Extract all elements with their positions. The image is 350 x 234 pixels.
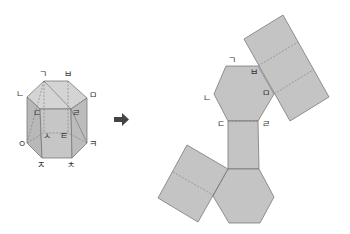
arrow-icon [114, 113, 129, 126]
label-g: ㄱ [39, 69, 47, 79]
net-side-strip-lower [158, 145, 228, 222]
label-b: ㅂ [64, 69, 72, 79]
label-s: ㅅ [43, 131, 51, 141]
label-j: ㅈ [37, 160, 45, 170]
label-d: ㄷ [33, 108, 41, 118]
hexagonal-prism: ㄱ ㅂ ㅁ ㄴ ㄷ ㄹ ㅅ ㅌ ㅇ ㅋ ㅈ ㅊ [16, 69, 97, 170]
label-o: ㅇ [18, 139, 26, 149]
net-label-m: ㅁ [262, 88, 270, 98]
label-n: ㄴ [16, 89, 24, 99]
net-label-n: ㄴ [203, 93, 211, 103]
label-m: ㅁ [89, 90, 97, 100]
diagram-canvas: ㄱ ㅂ ㅁ ㄴ ㄷ ㄹ ㅅ ㅌ ㅇ ㅋ ㅈ ㅊ [0, 0, 350, 234]
prism-net: ㄱ ㅂ ㄴ ㅁ ㄷ ㄹ [158, 15, 329, 223]
label-t: ㅌ [60, 131, 68, 141]
net-middle-face [228, 121, 259, 169]
net-label-r: ㄹ [262, 119, 270, 129]
net-label-d: ㄷ [217, 119, 225, 129]
net-label-g: ㄱ [228, 55, 236, 65]
label-ch: ㅊ [67, 160, 75, 170]
label-r: ㄹ [72, 108, 80, 118]
label-k: ㅋ [89, 139, 97, 149]
net-label-b: ㅂ [250, 67, 258, 77]
prism-right-face [71, 98, 87, 158]
prism-net-diagram: ㄱ ㅂ ㅁ ㄴ ㄷ ㄹ ㅅ ㅌ ㅇ ㅋ ㅈ ㅊ [0, 0, 350, 234]
